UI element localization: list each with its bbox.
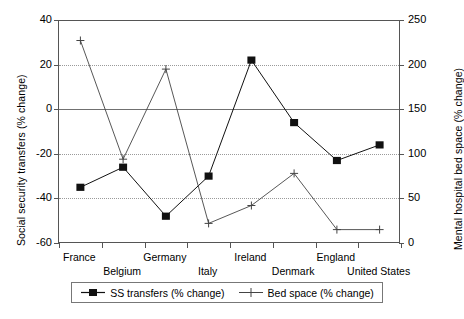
x-tick — [316, 243, 317, 248]
data-point-marker — [247, 57, 255, 64]
data-point-marker — [119, 155, 127, 163]
x-tick — [273, 243, 274, 248]
left-tick-label: -20 — [18, 147, 52, 159]
x-tick-label: Belgium — [103, 265, 141, 277]
plot-area — [58, 20, 400, 243]
x-tick-label: Italy — [198, 265, 217, 277]
x-tick — [187, 243, 188, 248]
right-tick-label: 0 — [408, 236, 442, 248]
left-tick-label: -60 — [18, 236, 52, 248]
x-tick-label: Denmark — [272, 265, 315, 277]
x-tick-label: Germany — [143, 251, 186, 263]
x-tick — [230, 243, 231, 248]
data-point-marker — [76, 184, 84, 191]
series-lines — [59, 20, 401, 243]
legend-label: SS transfers (% change) — [110, 287, 224, 299]
legend-square-icon — [80, 287, 106, 298]
left-axis-title: Social security transfers (% change) — [15, 74, 27, 246]
x-tick-label: Ireland — [234, 251, 266, 263]
data-point-marker — [333, 226, 341, 234]
right-axis-title: Mental hospital bed space (% change) — [452, 68, 464, 250]
left-tick-label: -40 — [18, 191, 52, 203]
right-tick-label: 50 — [408, 191, 442, 203]
x-tick-label: United States — [347, 265, 410, 277]
x-tick — [102, 243, 103, 248]
series-line — [80, 60, 379, 216]
right-tick-label: 100 — [408, 147, 442, 159]
x-tick — [145, 243, 146, 248]
data-point-marker — [162, 213, 170, 220]
left-tick-label: 40 — [18, 13, 52, 25]
data-point-marker — [290, 119, 298, 126]
x-tick-label: France — [63, 251, 96, 263]
data-point-marker — [376, 226, 384, 234]
x-tick — [401, 243, 402, 248]
data-point-marker — [162, 65, 170, 73]
x-tick-label: England — [317, 251, 356, 263]
chart-legend: SS transfers (% change)Bed space (% chan… — [71, 282, 383, 303]
right-tick-label: 200 — [408, 58, 442, 70]
data-point-marker — [290, 169, 298, 177]
data-point-marker — [76, 37, 84, 45]
x-tick — [358, 243, 359, 248]
right-tick-label: 250 — [408, 13, 442, 25]
data-point-marker — [205, 219, 213, 227]
data-point-marker — [119, 164, 127, 171]
x-tick — [59, 243, 60, 248]
data-point-marker — [376, 141, 384, 148]
data-point-marker — [247, 202, 255, 210]
data-point-marker — [205, 173, 213, 180]
legend-item[interactable]: SS transfers (% change) — [80, 287, 224, 299]
right-tick-label: 150 — [408, 102, 442, 114]
left-tick-label: 20 — [18, 58, 52, 70]
series-line — [80, 41, 379, 230]
data-point-marker — [333, 157, 341, 164]
legend-label: Bed space (% change) — [268, 287, 374, 299]
left-tick-label: 0 — [18, 102, 52, 114]
legend-item[interactable]: Bed space (% change) — [238, 287, 374, 299]
legend-plus-icon — [238, 287, 264, 298]
